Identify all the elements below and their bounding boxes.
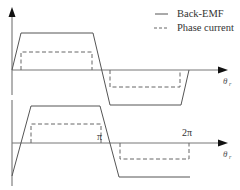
tick-label-pi: π [97,131,102,142]
bottom-x-axis-arrowhead-icon [218,140,228,147]
bottom-phase-current-curve [31,124,101,143]
top-phase-current-negative [110,70,180,87]
top-axis-label: θ [223,76,228,86]
top-axis-label-sub: r [229,81,232,87]
bottom-panel: π 2π θ r [12,100,232,186]
top-y-axis-arrowhead-icon [9,7,16,17]
legend-label-back-emf: Back-EMF [177,8,224,19]
legend: Back-EMF Phase current [154,8,234,33]
bottom-axis-label-sub: r [229,154,232,160]
bottom-axis-label: θ [223,149,228,159]
top-back-emf-curve [12,33,189,105]
legend-label-phase-current: Phase current [177,22,234,33]
top-phase-current-curve [21,52,92,70]
tick-label-2pi: 2π [182,127,192,138]
waveform-diagram: θ r Back-EMF Phase current π 2π θ r [0,0,240,190]
bottom-phase-current-negative [120,143,189,159]
top-x-axis-arrowhead-icon [218,67,228,74]
